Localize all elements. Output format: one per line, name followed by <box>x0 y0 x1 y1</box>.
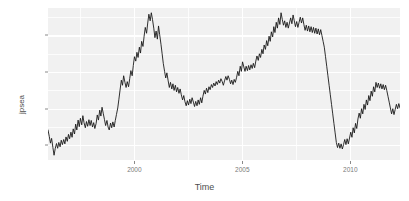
x-tick-label: 2010 <box>343 166 357 173</box>
line-series <box>48 8 400 160</box>
x-tick-label: 2000 <box>127 166 141 173</box>
x-tick-mark <box>134 161 135 164</box>
x-tick-mark <box>242 161 243 164</box>
series-polyline <box>48 13 400 155</box>
chart-figure: jpsea 8090100110 200020052010 Time <box>0 0 409 201</box>
y-axis-title: jpsea <box>17 75 26 135</box>
x-tick-mark <box>350 161 351 164</box>
x-axis-title: Time <box>0 182 409 192</box>
plot-panel <box>48 8 400 160</box>
x-tick-label: 2005 <box>235 166 249 173</box>
